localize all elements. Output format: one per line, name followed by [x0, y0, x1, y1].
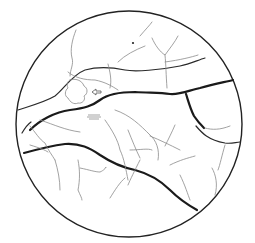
map-canvas [0, 0, 255, 243]
map-border-circle [16, 11, 242, 237]
map-view [0, 0, 255, 243]
dot-marker-icon [132, 42, 134, 44]
